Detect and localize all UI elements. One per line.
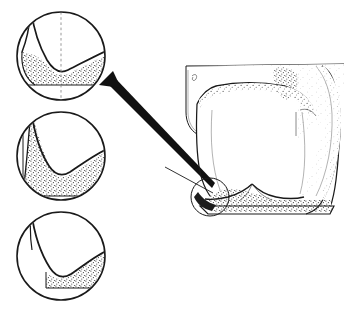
canvas-background [0, 0, 351, 313]
dental-illustration-svg [0, 0, 351, 313]
figure-root [0, 0, 351, 313]
